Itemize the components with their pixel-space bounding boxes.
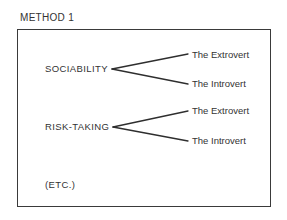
risktaking-branch-introvert: The Introvert	[192, 135, 246, 147]
diagram-title: METHOD 1	[20, 12, 74, 23]
sociability-branch-extrovert: The Extrovert	[192, 49, 249, 61]
trait-sociability: SOCIABILITY	[45, 63, 108, 75]
trait-risk-taking: RISK-TAKING	[45, 121, 109, 133]
risktaking-branch-extrovert: The Extrovert	[192, 105, 249, 117]
continuation-note: (ETC.)	[45, 179, 75, 191]
sociability-branch-introvert: The Introvert	[192, 78, 246, 90]
